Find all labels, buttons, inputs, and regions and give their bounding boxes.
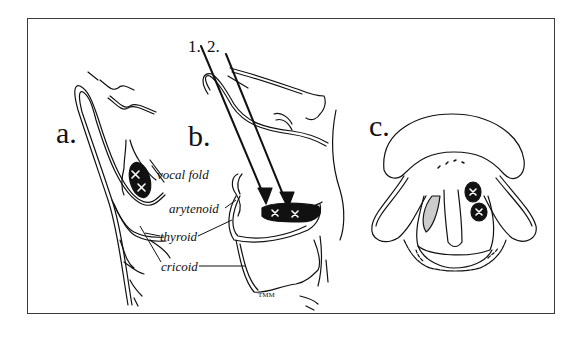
artist-signature: TMM xyxy=(258,292,275,299)
leader-lines xyxy=(0,0,581,350)
